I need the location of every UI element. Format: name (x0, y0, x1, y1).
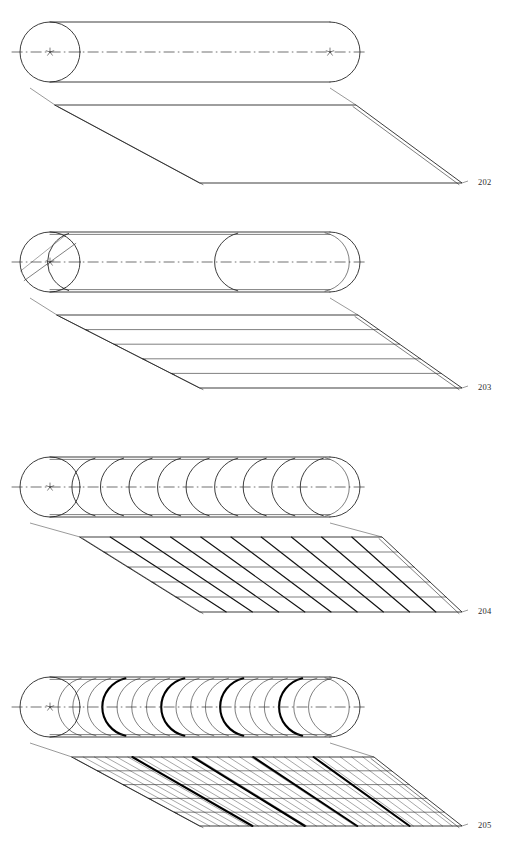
figure-canvas: 202203204205 (0, 0, 510, 843)
reference-numeral-203: 203 (478, 382, 491, 392)
roll-cylinder-205 (12, 677, 367, 737)
reference-numeral-205: 205 (478, 820, 491, 830)
roll-cylinder-202 (12, 22, 367, 82)
reference-numeral-204: 204 (478, 606, 492, 616)
patent-figure-sheet: 202203204205 (0, 0, 510, 843)
roll-cylinder-203 (12, 232, 367, 292)
roll-cylinder-204 (12, 457, 367, 517)
reference-numeral-202: 202 (478, 177, 491, 187)
